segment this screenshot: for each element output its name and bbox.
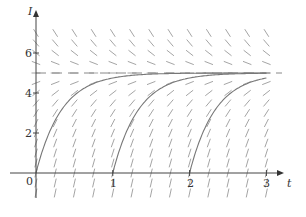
slope-segment [185,81,193,84]
slope-segment [169,179,171,188]
slope-segment [187,100,193,107]
slope-segment [207,129,211,137]
slope-segment [226,29,231,37]
slope-segment [225,40,231,47]
slope-segment [150,139,153,147]
slope-segment [112,159,114,168]
slope-segment [227,159,229,168]
slope-segment [169,159,171,168]
slope-segment [150,149,153,158]
x-tick-label-3: 3 [263,178,270,189]
y-tick-label-4: 4 [25,88,32,99]
slope-segment [246,139,249,147]
slope-segment [167,40,173,47]
slope-segment [169,149,172,158]
slope-segment [54,139,57,147]
slope-segment [206,29,211,37]
slope-segment [245,129,249,137]
slope-segment [262,61,270,64]
slope-segment [246,189,248,198]
slope-segment [188,129,192,137]
y-axis-label: I [28,6,32,17]
slope-segment [208,159,210,168]
slope-segment [226,109,231,117]
slope-segment [128,61,136,64]
slope-segment [169,189,171,198]
slope-segment [207,139,210,147]
slope-segment [70,81,78,84]
slope-segment [93,179,95,188]
slope-segment [150,179,152,188]
slope-segment [92,129,96,137]
slope-segment [92,149,95,158]
slope-segment [262,81,270,84]
slope-segment [150,189,152,198]
slope-segment [265,159,267,168]
slope-segment [207,149,210,158]
slope-segment [149,29,154,37]
slope-segment [131,159,133,168]
slope-segment [205,81,213,84]
slope-segment [54,159,56,168]
slope-segment [109,61,117,64]
slope-segment [148,40,154,47]
slope-segment [206,109,211,117]
slope-segment [188,139,191,147]
slope-segment [93,189,95,198]
slope-segment [265,149,268,158]
x-tick-label-1: 1 [110,178,117,189]
slope-segment [130,109,135,117]
slope-segment [91,29,96,37]
slope-segment [244,100,250,107]
slope-segment [111,129,115,137]
slope-segment [227,189,229,198]
slope-segment [224,81,232,84]
slope-segment [53,109,58,117]
slope-segment [205,50,212,56]
slope-segment [205,90,212,96]
slope-segment [187,29,192,37]
slope-segment [186,50,193,56]
axis-ticks [33,53,266,176]
slope-segment [72,29,77,37]
slope-segment [109,90,116,96]
slope-segment [53,129,57,137]
slope-segment [52,100,58,107]
slope-segment [92,159,94,168]
slope-segment [73,179,75,188]
slope-segment [89,61,97,64]
slope-segment [227,179,229,188]
slope-segment [224,61,232,64]
slope-segment [110,29,115,37]
slope-segment [168,119,172,127]
slope-segment [187,40,193,47]
slope-segment [128,50,135,56]
x-tick-label-2: 2 [187,178,194,189]
slope-segment [245,29,250,37]
slope-segment [92,139,95,147]
x-axis-arrow-icon [277,170,284,176]
slope-segment [130,129,134,137]
slope-segment [226,129,230,137]
slope-segment [73,149,76,158]
slope-segment [92,119,96,127]
slope-segment [70,61,78,64]
slope-segment [52,90,59,96]
slope-segment [149,119,153,127]
slope-segment [129,100,135,107]
slope-segment [51,81,59,84]
slope-segment [246,159,248,168]
slope-segment [206,40,212,47]
slope-field-diagram [0,0,306,217]
slope-segment [73,129,77,137]
slope-segment [264,29,269,37]
slope-segment [130,29,135,37]
slope-segment [147,81,155,84]
slope-segment [54,149,57,158]
slope-segment [71,50,78,56]
slope-segment [90,90,97,96]
slope-segment [131,189,133,198]
x-axis-label: t [287,178,291,189]
slope-segment [72,109,77,117]
slope-segment [224,50,231,56]
